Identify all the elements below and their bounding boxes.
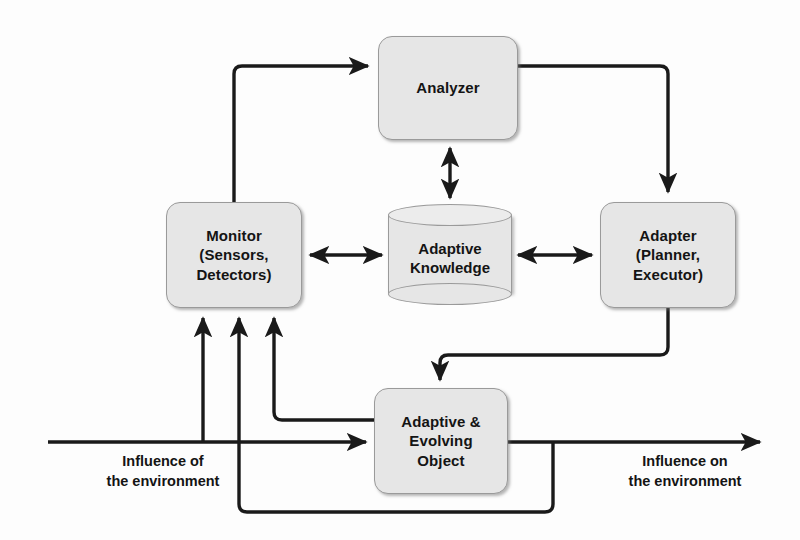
caption-influence-on-the-environment: Influence on the environment bbox=[580, 452, 790, 491]
node-adapter-label: Adapter (Planner, Executor) bbox=[629, 226, 707, 284]
connector-adapter-to-object bbox=[440, 308, 668, 380]
node-adapter[interactable]: Adapter (Planner, Executor) bbox=[600, 202, 736, 308]
node-monitor-label: Monitor (Sensors, Detectors) bbox=[192, 226, 275, 284]
node-adaptive-knowledge-label: Adaptive Knowledge bbox=[388, 230, 512, 286]
node-adaptive-evolving-object-label: Adaptive & Evolving Object bbox=[397, 412, 484, 470]
node-adaptive-evolving-object[interactable]: Adaptive & Evolving Object bbox=[374, 388, 508, 494]
diagram-canvas: Analyzer Monitor (Sensors, Detectors) Ad… bbox=[0, 0, 800, 540]
cylinder-bottom-ellipse bbox=[388, 283, 512, 305]
connector-object-to-monitor bbox=[274, 318, 374, 420]
node-monitor[interactable]: Monitor (Sensors, Detectors) bbox=[166, 202, 302, 308]
node-analyzer[interactable]: Analyzer bbox=[378, 36, 518, 140]
cylinder-top-ellipse bbox=[388, 204, 512, 226]
caption-influence-of-the-environment: Influence of the environment bbox=[58, 452, 268, 491]
node-analyzer-label: Analyzer bbox=[412, 78, 483, 97]
connector-analyzer-to-adapter bbox=[518, 66, 668, 192]
connector-monitor-to-analyzer bbox=[234, 66, 368, 202]
node-adaptive-knowledge[interactable]: Adaptive Knowledge bbox=[388, 204, 512, 304]
